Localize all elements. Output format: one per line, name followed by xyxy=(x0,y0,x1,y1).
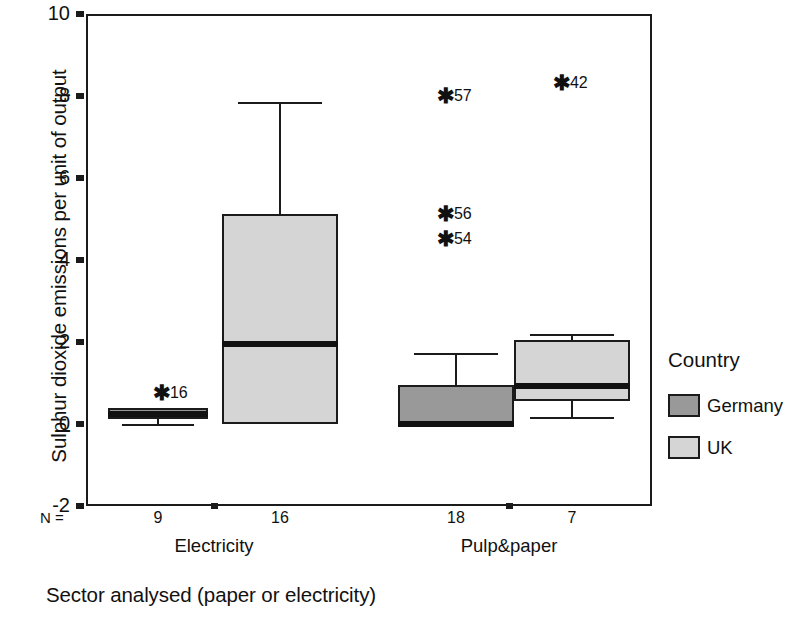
y-tick-label: 0 xyxy=(10,413,70,433)
y-tick-mark xyxy=(76,503,84,509)
asterisk-icon: ✱ xyxy=(437,202,454,225)
asterisk-icon: ✱ xyxy=(153,381,170,404)
whisker-cap-upper xyxy=(530,334,614,336)
legend-title: Country xyxy=(668,348,783,372)
median-line xyxy=(398,421,514,427)
y-tick-mark xyxy=(76,339,84,345)
x-axis-title: Sector analysed (paper or electricity) xyxy=(46,583,376,607)
outlier-marker-54: ✱54 xyxy=(437,231,471,247)
median-line xyxy=(222,341,338,347)
legend-swatch-germany xyxy=(668,394,700,417)
box-uk-3[interactable] xyxy=(514,340,630,402)
outlier-marker-56: ✱56 xyxy=(437,206,471,222)
outlier-label: 56 xyxy=(454,205,471,222)
outlier-marker-42: ✱42 xyxy=(553,75,587,91)
asterisk-icon: ✱ xyxy=(553,71,570,94)
whisker-upper xyxy=(279,102,281,214)
y-tick-label: 8 xyxy=(10,85,70,105)
whisker-upper xyxy=(455,353,457,385)
whisker-cap-lower xyxy=(530,417,614,419)
y-tick-mark xyxy=(76,421,84,427)
n-value-2: 18 xyxy=(421,509,491,527)
outlier-label: 16 xyxy=(170,384,187,401)
box-uk-1[interactable] xyxy=(222,214,338,424)
y-tick-mark xyxy=(76,11,84,17)
box-germany-2[interactable] xyxy=(398,385,514,424)
legend-item-germany[interactable]: Germany xyxy=(668,394,783,417)
legend: Country Germany UK xyxy=(668,348,783,478)
legend-label-uk: UK xyxy=(707,437,733,459)
median-line xyxy=(514,383,630,389)
n-value-3: 7 xyxy=(537,509,607,527)
outlier-label: 42 xyxy=(570,74,587,91)
whisker-cap-upper xyxy=(414,353,498,355)
legend-item-uk[interactable]: UK xyxy=(668,436,783,459)
outlier-label: 57 xyxy=(454,87,471,104)
asterisk-icon: ✱ xyxy=(437,227,454,250)
n-value-0: 9 xyxy=(123,509,193,527)
legend-swatch-uk xyxy=(668,436,700,459)
x-tick-mark-0 xyxy=(211,503,218,509)
n-value-1: 16 xyxy=(245,509,315,527)
outlier-marker-16: ✱16 xyxy=(153,385,187,401)
x-tick-mark-1 xyxy=(506,503,513,509)
x-category-label-1: Pulp&paper xyxy=(399,535,619,557)
boxplot-figure: Sulphur dioxide emissions per unit of ou… xyxy=(0,0,786,622)
whisker-lower xyxy=(571,401,573,417)
y-tick-mark xyxy=(76,93,84,99)
whisker-cap-upper xyxy=(238,102,322,104)
plot-area: ✱16✱57✱56✱54✱42 xyxy=(86,14,652,506)
legend-label-germany: Germany xyxy=(707,395,783,417)
y-tick-label: 2 xyxy=(10,331,70,351)
y-tick-mark xyxy=(76,257,84,263)
median-line xyxy=(108,411,208,417)
n-equals-label: N = xyxy=(40,509,64,526)
y-tick-label: 6 xyxy=(10,167,70,187)
x-category-label-0: Electricity xyxy=(104,535,324,557)
asterisk-icon: ✱ xyxy=(437,84,454,107)
y-tick-mark xyxy=(76,175,84,181)
outlier-marker-57: ✱57 xyxy=(437,88,471,104)
whisker-cap-lower xyxy=(122,424,194,426)
outlier-label: 54 xyxy=(454,230,471,247)
y-tick-label: 4 xyxy=(10,249,70,269)
y-tick-label: 10 xyxy=(10,3,70,23)
